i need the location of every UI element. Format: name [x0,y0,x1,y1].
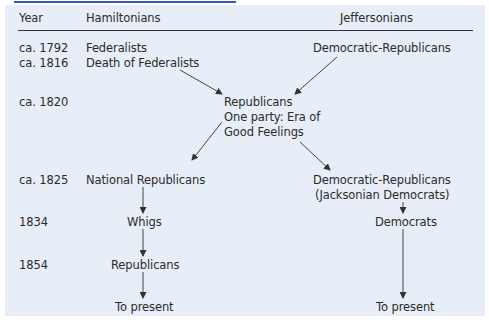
flow-arrows [0,0,489,326]
arrow-federalists-to-republicans [180,70,222,94]
arrow-to-demrep-1825 [300,142,330,170]
arrow-demrep-to-republicans [295,57,337,94]
arrow-to-national-republicans [192,122,222,160]
